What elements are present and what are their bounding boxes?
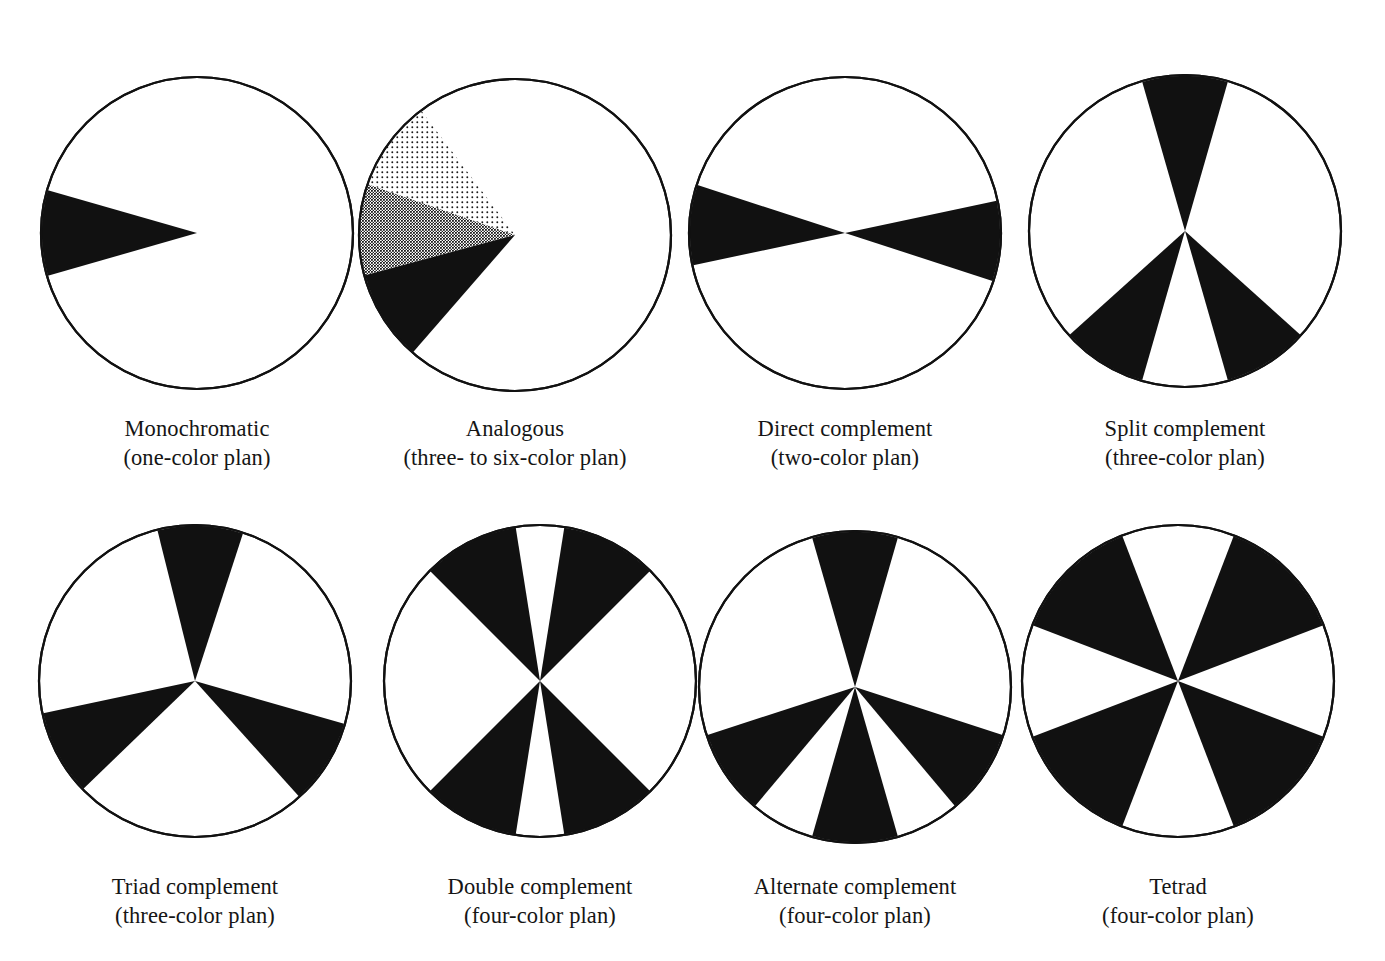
wheel-cell-tetrad: Tetrad(four-color plan) bbox=[1022, 522, 1334, 931]
wheel-caption-alternate-complement: Alternate complement(four-color plan) bbox=[754, 872, 957, 931]
wheel-cell-double-complement: Double complement(four-color plan) bbox=[384, 522, 696, 931]
wheel-caption-direct-complement: Direct complement(two-color plan) bbox=[758, 414, 933, 473]
wheel-cell-monochromatic: Monochromatic(one-color plan) bbox=[41, 74, 353, 473]
wheel-title-double-complement: Double complement bbox=[448, 872, 633, 901]
color-wheel-split-complement bbox=[1026, 72, 1344, 390]
wheel-cell-triad-complement: Triad complement(three-color plan) bbox=[39, 522, 351, 931]
wheel-cell-alternate-complement: Alternate complement(four-color plan) bbox=[699, 528, 1011, 931]
color-wheel-analogous bbox=[356, 76, 674, 394]
color-wheel-alternate-complement bbox=[696, 528, 1014, 846]
color-wheel-tetrad bbox=[1019, 522, 1337, 840]
wheel-subtitle-alternate-complement: (four-color plan) bbox=[754, 901, 957, 930]
wheel-title-triad-complement: Triad complement bbox=[112, 872, 278, 901]
wheel-title-alternate-complement: Alternate complement bbox=[754, 872, 957, 901]
wheel-title-tetrad: Tetrad bbox=[1102, 872, 1254, 901]
color-harmony-figure: Monochromatic(one-color plan) Analogous(… bbox=[0, 0, 1385, 961]
wheel-subtitle-tetrad: (four-color plan) bbox=[1102, 901, 1254, 930]
color-wheel-direct-complement bbox=[686, 74, 1004, 392]
wheel-subtitle-double-complement: (four-color plan) bbox=[448, 901, 633, 930]
color-wheel-triad-complement bbox=[36, 522, 354, 840]
wheel-subtitle-analogous: (three- to six-color plan) bbox=[403, 443, 626, 472]
wheel-subtitle-direct-complement: (two-color plan) bbox=[758, 443, 933, 472]
wheel-title-analogous: Analogous bbox=[403, 414, 626, 443]
color-wheel-monochromatic bbox=[38, 74, 356, 392]
wheel-subtitle-split-complement: (three-color plan) bbox=[1105, 443, 1266, 472]
color-wheel-double-complement bbox=[381, 522, 699, 840]
wheel-title-split-complement: Split complement bbox=[1105, 414, 1266, 443]
wheel-title-monochromatic: Monochromatic bbox=[123, 414, 270, 443]
wheel-caption-analogous: Analogous(three- to six-color plan) bbox=[403, 414, 626, 473]
wheel-caption-tetrad: Tetrad(four-color plan) bbox=[1102, 872, 1254, 931]
wheel-caption-triad-complement: Triad complement(three-color plan) bbox=[112, 872, 278, 931]
wheel-caption-split-complement: Split complement(three-color plan) bbox=[1105, 414, 1266, 473]
wheel-cell-direct-complement: Direct complement(two-color plan) bbox=[689, 74, 1001, 473]
wheel-subtitle-monochromatic: (one-color plan) bbox=[123, 443, 270, 472]
wheel-caption-double-complement: Double complement(four-color plan) bbox=[448, 872, 633, 931]
wheel-cell-split-complement: Split complement(three-color plan) bbox=[1029, 72, 1341, 473]
wheel-caption-monochromatic: Monochromatic(one-color plan) bbox=[123, 414, 270, 473]
wheel-cell-analogous: Analogous(three- to six-color plan) bbox=[359, 76, 671, 473]
wheel-subtitle-triad-complement: (three-color plan) bbox=[112, 901, 278, 930]
wheel-grid: Monochromatic(one-color plan) Analogous(… bbox=[0, 0, 1385, 961]
wheel-title-direct-complement: Direct complement bbox=[758, 414, 933, 443]
